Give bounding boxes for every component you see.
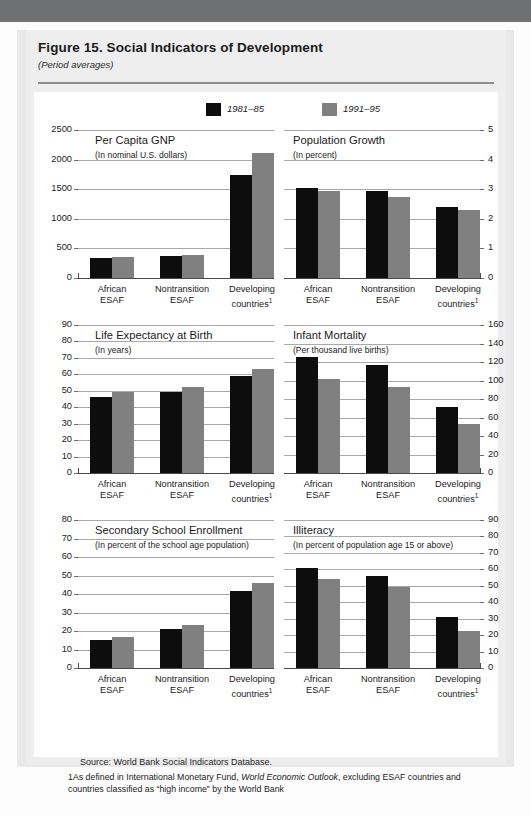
y-axis-label: 50 <box>488 580 498 590</box>
axis-tick <box>480 325 484 326</box>
y-axis-label: 1 <box>488 242 493 252</box>
axis-tick <box>480 418 484 419</box>
axis-tick <box>74 631 78 632</box>
axis-tick <box>480 436 484 437</box>
axis-tick <box>480 520 484 521</box>
chart-subtitle: (In years) <box>92 345 134 355</box>
bar <box>436 207 458 278</box>
chart-infant-mortality: 020406080100120140160Infant Mortality(Pe… <box>284 325 504 510</box>
axis-tick <box>74 520 78 521</box>
y-axis-label: 90 <box>488 514 498 524</box>
bar <box>388 387 410 473</box>
bar <box>230 175 252 278</box>
axis-tick <box>74 341 78 342</box>
axis-tick <box>480 248 484 249</box>
bar <box>182 255 204 278</box>
y-axis-label: 140 <box>488 338 504 348</box>
figure-subtitle: (Period averages) <box>38 59 114 70</box>
chart-title: Secondary School Enrollment <box>92 524 245 536</box>
axis-tick <box>74 407 78 408</box>
bar <box>458 210 480 278</box>
bar <box>230 591 252 668</box>
y-axis-label: 60 <box>488 412 498 422</box>
bar <box>436 617 458 668</box>
bar <box>296 357 318 473</box>
axis-tick <box>480 362 484 363</box>
y-axis-label: 40 <box>48 588 72 598</box>
y-axis-label: 3 <box>488 183 493 193</box>
bar <box>252 583 274 668</box>
gridline <box>78 520 274 521</box>
plot-area: 012345Population Growth(In percent)Afric… <box>284 130 480 278</box>
chart-secondary-school-enrollment: 01020304050607080Secondary School Enroll… <box>54 520 274 705</box>
gridline <box>284 536 480 537</box>
y-axis-label: 20 <box>48 625 72 635</box>
gridline <box>78 130 274 131</box>
bar <box>160 629 182 668</box>
chart-life-expectancy-at-birth: 0102030405060708090Life Expectancy at Bi… <box>54 325 274 510</box>
header-divider <box>38 82 494 84</box>
chart-title: Per Capita GNP <box>92 134 178 146</box>
gridline <box>284 520 480 521</box>
y-axis-label: 100 <box>488 375 504 385</box>
y-axis-label: 40 <box>488 430 498 440</box>
bar <box>182 625 204 668</box>
source-note: Source: World Bank Social Indicators Dat… <box>80 757 272 767</box>
footnote: 1As defined in International Monetary Fu… <box>68 771 498 795</box>
gridline <box>78 557 274 558</box>
axis-tick <box>480 635 484 636</box>
bar <box>112 392 134 473</box>
y-axis-stub <box>480 273 481 279</box>
y-axis-label: 120 <box>488 356 504 366</box>
axis-tick <box>74 613 78 614</box>
legend-swatch <box>322 103 337 116</box>
axis-tick <box>74 189 78 190</box>
x-axis-category-label: Developingcountries1 <box>412 479 504 505</box>
y-axis-label: 20 <box>488 449 498 459</box>
y-axis-label: 60 <box>488 563 498 573</box>
y-axis-label: 0 <box>488 272 493 282</box>
y-axis-label: 0 <box>488 467 493 477</box>
x-axis-line <box>284 668 480 669</box>
axis-tick <box>480 569 484 570</box>
axis-tick <box>480 344 484 345</box>
y-axis-label: 80 <box>488 530 498 540</box>
axis-tick <box>74 440 78 441</box>
bar <box>182 387 204 473</box>
chart-per-capita-gnp: 05001000150020002500Per Capita GNP(In no… <box>54 130 274 315</box>
y-axis-label: 4 <box>488 154 493 164</box>
axis-tick <box>74 576 78 577</box>
axis-tick <box>74 219 78 220</box>
x-axis-line <box>78 668 274 669</box>
y-axis-label: 10 <box>488 646 498 656</box>
axis-tick <box>74 374 78 375</box>
y-axis-label: 2 <box>488 213 493 223</box>
axis-tick <box>480 189 484 190</box>
figure-container: Figure 15. Social Indicators of Developm… <box>26 30 506 765</box>
chart-subtitle: (In percent of the school age population… <box>92 540 252 550</box>
axis-tick <box>480 602 484 603</box>
gridline <box>78 358 274 359</box>
y-axis-label: 500 <box>48 242 72 252</box>
bar <box>112 257 134 278</box>
axis-tick <box>74 248 78 249</box>
y-axis-label: 60 <box>48 551 72 561</box>
gridline <box>78 341 274 342</box>
axis-tick <box>74 650 78 651</box>
chart-legend: 1981–851991–95 <box>34 98 498 124</box>
axis-tick <box>74 358 78 359</box>
axis-tick <box>480 455 484 456</box>
legend-label: 1991–95 <box>343 103 380 114</box>
plot-area: 020406080100120140160Infant Mortality(Pe… <box>284 325 480 473</box>
axis-tick <box>480 536 484 537</box>
legend-label: 1981–85 <box>227 103 264 114</box>
axis-tick <box>480 381 484 382</box>
chart-population-growth: 012345Population Growth(In percent)Afric… <box>284 130 504 315</box>
y-axis-label: 30 <box>488 613 498 623</box>
x-axis-line <box>78 473 274 474</box>
y-axis-label: 50 <box>48 385 72 395</box>
axis-tick <box>74 424 78 425</box>
y-axis-stub <box>480 468 481 474</box>
chart-title: Life Expectancy at Birth <box>92 329 216 341</box>
y-axis-label: 0 <box>48 662 72 672</box>
